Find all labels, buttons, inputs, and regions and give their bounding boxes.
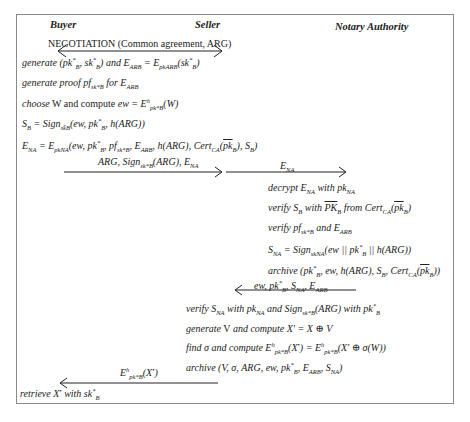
arrow-seller-to-buyer [60,378,218,388]
arrows-layer [0,0,470,422]
arrow-notary-to-seller [235,285,356,295]
arrow-seller-to-notary [226,167,346,177]
arrow-buyer-to-seller [64,167,222,177]
negotiation-arrow [58,45,222,57]
